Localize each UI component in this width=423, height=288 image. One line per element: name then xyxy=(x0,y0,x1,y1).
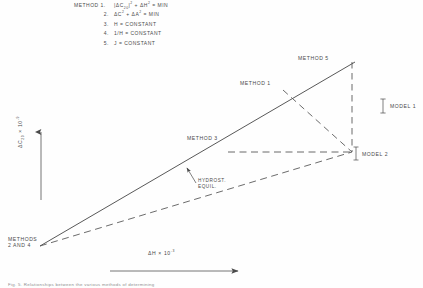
method-definitions-legend: METHOD 1. |ΔC20|2 + ΔH2 = MIN 2. ΔC2 + Δ… xyxy=(74,3,168,50)
annotation-hydrost-line1: HYDROST. xyxy=(198,178,226,184)
legend-method-number: 4. xyxy=(74,31,114,36)
model-1-bracket xyxy=(380,99,385,113)
legend-method-equation: |ΔC20|2 + ΔH2 = MIN xyxy=(114,3,168,8)
plot-canvas xyxy=(0,0,423,288)
annotation-methods-2-and-4: METHODS 2 AND 4 xyxy=(8,236,37,249)
legend-row: 5. J = CONSTANT xyxy=(74,41,168,50)
annotation-hydrostatic-equilibrium: HYDROST. EQUIL. xyxy=(198,178,226,190)
annotation-model-1: MODEL 1 xyxy=(390,103,416,110)
annotation-method-5: METHOD 5 xyxy=(298,55,329,62)
legend-method-equation: J = CONSTANT xyxy=(114,41,155,46)
annotation-model-2: MODEL 2 xyxy=(362,151,388,158)
x-axis-label: ΔH × 10-3 xyxy=(148,250,175,256)
method-5-line xyxy=(40,62,355,246)
annotation-methods-2-and-4-line2: 2 AND 4 xyxy=(8,242,37,248)
methods-2-and-4-line xyxy=(40,152,352,246)
legend-method-number: METHOD 1. xyxy=(74,3,114,8)
model-2-bracket xyxy=(354,147,359,160)
legend-method-equation: H = CONSTANT xyxy=(114,22,156,27)
annotation-hydrost-line2: EQUIL. xyxy=(198,184,226,190)
y-axis-label: ΔC20 × 10-9 xyxy=(17,116,23,148)
annotation-method-1: METHOD 1 xyxy=(240,80,271,87)
method-1-line xyxy=(283,90,352,152)
hydrost-equil-pointer xyxy=(187,168,196,183)
legend-method-number: 2. xyxy=(74,12,114,17)
legend-method-number: 3. xyxy=(74,22,114,27)
legend-method-equation: ΔC2 + ΔA2 = MIN xyxy=(114,12,159,17)
legend-method-number: 5. xyxy=(74,41,114,46)
legend-method-equation: 1/H = CONSTANT xyxy=(114,31,162,36)
figure-root: METHOD 1. |ΔC20|2 + ΔH2 = MIN 2. ΔC2 + Δ… xyxy=(0,0,423,288)
annotation-method-3: METHOD 3 xyxy=(187,135,218,142)
figure-caption: Fig. 5. Relationships between the variou… xyxy=(8,282,155,287)
